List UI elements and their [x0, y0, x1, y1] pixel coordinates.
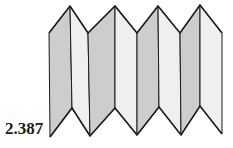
- figure-number-label: 2.387: [5, 119, 43, 139]
- fold-panel-2: [70, 6, 90, 136]
- fold-panel-4: [115, 6, 137, 135]
- fold-panel-8: [200, 5, 222, 134]
- fold-panel-6: [158, 6, 181, 135]
- fold-panel-7: [180, 5, 200, 135]
- figure-canvas: 2.387: [0, 0, 233, 148]
- fold-panel-3: [88, 6, 115, 136]
- fold-panel-1: [49, 6, 72, 137]
- fold-panel-5: [137, 6, 159, 135]
